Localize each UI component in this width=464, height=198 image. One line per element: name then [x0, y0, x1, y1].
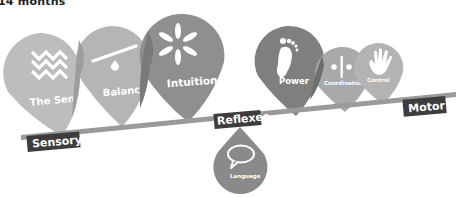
development-diagram: The Senses Balance Intuition	[0, 0, 464, 198]
pin-language: Language	[213, 127, 267, 194]
pin-label: Control	[367, 77, 390, 83]
pin-label: Language	[230, 173, 261, 180]
pin-label: Power	[279, 76, 310, 86]
tag-reflexes: Reflexes	[213, 109, 270, 129]
tag-label: Reflexes	[216, 110, 270, 128]
pin-label: Coordination	[324, 80, 364, 86]
pin-balance: Balance	[72, 26, 150, 127]
pin-power: Power	[255, 26, 325, 116]
zigzag-waves-icon	[32, 52, 67, 78]
pin-control: Control	[354, 43, 403, 104]
pin-intuition: Intuition	[140, 14, 225, 122]
